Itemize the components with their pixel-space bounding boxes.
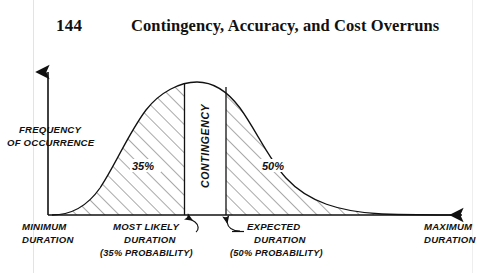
right-area-percent-label: 50% (262, 160, 284, 172)
expected-duration-leader (226, 217, 240, 231)
most-likely-duration-label-line1: MOST LIKELY (113, 221, 180, 232)
most-likely-duration-probability: (35% PROBABILITY) (100, 248, 193, 258)
running-head-title: Contingency, Accuracy, and Cost Overruns (131, 16, 439, 36)
expected-duration-label-line2: DURATION (254, 234, 306, 245)
distribution-chart-svg: FREQUENCY OF OCCURRENCE 35% 50% CONTINGE… (0, 40, 492, 273)
expected-duration-label-line1: EXPECTED (247, 221, 300, 232)
page-number: 144 (56, 16, 82, 36)
most-likely-duration-leader (187, 217, 198, 232)
contingency-band-label: CONTINGENCY (199, 103, 211, 188)
minimum-duration-label-line2: DURATION (22, 234, 74, 245)
page-header: 144 Contingency, Accuracy, and Cost Over… (0, 14, 492, 40)
minimum-duration-label-line1: MINIMUM (22, 221, 67, 232)
distribution-figure: FREQUENCY OF OCCURRENCE 35% 50% CONTINGE… (0, 40, 492, 273)
y-axis-label-line1: FREQUENCY (19, 124, 82, 135)
maximum-duration-label-line2: DURATION (424, 234, 476, 245)
left-area-percent-label: 35% (132, 160, 154, 172)
figure-page: 144 Contingency, Accuracy, and Cost Over… (0, 0, 492, 273)
maximum-duration-label-line1: MAXIMUM (424, 221, 473, 232)
most-likely-duration-label-line2: DURATION (124, 234, 176, 245)
expected-duration-probability: (50% PROBABILITY) (230, 248, 323, 258)
y-axis-label-line2: OF OCCURRENCE (7, 137, 95, 148)
